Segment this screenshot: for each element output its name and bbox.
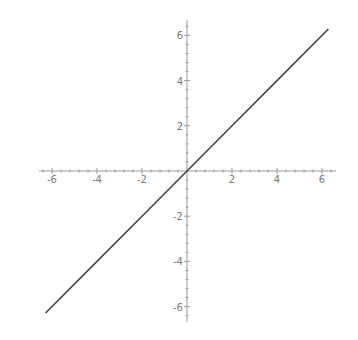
x-tick-label: 6 <box>319 174 325 185</box>
y-tick-label: 6 <box>177 30 183 41</box>
y-tick-label: 4 <box>177 76 183 87</box>
y-tick-label: -2 <box>173 211 183 222</box>
x-tick-label: -2 <box>137 174 147 185</box>
x-tick-label: 4 <box>274 174 280 185</box>
y-tick-label: -4 <box>173 256 183 267</box>
x-tick-label: -4 <box>92 174 102 185</box>
y-tick-label: -6 <box>173 302 183 313</box>
x-tick-label: -6 <box>47 174 57 185</box>
y-tick-label: 2 <box>177 121 183 132</box>
x-tick-labels: -6-4-2246 <box>47 174 325 185</box>
chart: -6-4-2246 -6-4-2246 <box>0 0 358 340</box>
x-tick-label: 2 <box>229 174 235 185</box>
